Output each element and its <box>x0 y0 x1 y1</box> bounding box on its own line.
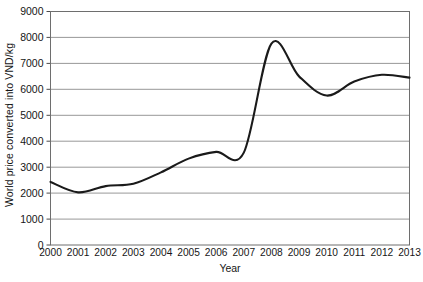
y-tick-label: 6000 <box>20 83 44 95</box>
line-chart-plot: 0100020003000400050006000700080009000 20… <box>0 0 423 282</box>
x-tick-label: 2005 <box>177 247 200 258</box>
x-axis-title: Year <box>50 262 410 274</box>
y-tick-label: 8000 <box>20 31 44 43</box>
x-axis-title-text: Year <box>219 262 240 274</box>
y-tick-label: 9000 <box>20 5 44 17</box>
y-tick-label: 1000 <box>20 213 44 225</box>
x-tick-labels-group: 2000200120022003200420052006200720082009… <box>39 247 421 258</box>
x-tick-label: 2006 <box>205 247 228 258</box>
x-tick-label: 2009 <box>288 247 311 258</box>
y-tick-label: 2000 <box>20 187 44 199</box>
y-tick-label: 7000 <box>20 57 44 69</box>
gridlines-group <box>51 12 410 220</box>
x-tick-label: 2012 <box>371 247 394 258</box>
chart-figure: World price converted into VND/kg 010002… <box>0 0 423 282</box>
x-tick-label: 2002 <box>94 247 117 258</box>
x-tick-label: 2011 <box>343 247 365 258</box>
y-tick-labels-group: 0100020003000400050006000700080009000 <box>20 5 50 251</box>
x-tick-label: 2004 <box>150 247 173 258</box>
x-tick-label: 2001 <box>67 247 90 258</box>
x-tick-label: 2008 <box>260 247 283 258</box>
y-tick-label: 5000 <box>20 109 44 121</box>
x-tick-label: 2000 <box>39 247 62 258</box>
y-tick-label: 3000 <box>20 161 44 173</box>
x-tick-label: 2013 <box>398 247 421 258</box>
x-tick-label: 2003 <box>122 247 145 258</box>
y-tick-label: 4000 <box>20 135 44 147</box>
plot-border <box>51 12 410 246</box>
x-tick-label: 2007 <box>232 247 255 258</box>
x-tick-label: 2010 <box>315 247 338 258</box>
